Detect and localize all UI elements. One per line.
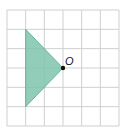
point-o-label: O [65,55,74,67]
grid-diagram: O [0,0,128,131]
